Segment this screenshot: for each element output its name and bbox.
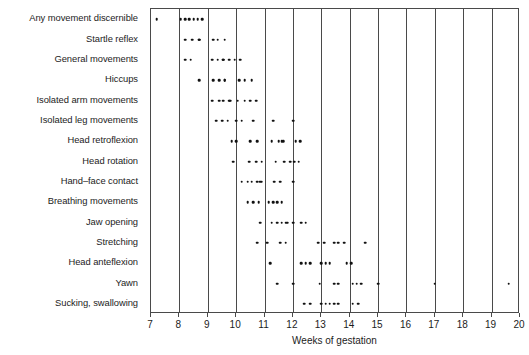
data-point	[222, 99, 225, 102]
data-point	[155, 18, 158, 21]
data-point	[197, 18, 200, 21]
data-point	[280, 221, 283, 224]
data-point	[351, 303, 354, 306]
data-point	[229, 99, 232, 102]
x-tick-mark	[377, 313, 378, 317]
x-tick-mark	[349, 313, 350, 317]
data-point	[212, 79, 215, 82]
data-point	[309, 303, 312, 306]
gridline	[208, 9, 209, 312]
data-point	[211, 59, 214, 62]
data-point	[276, 221, 279, 224]
data-point	[239, 59, 242, 62]
data-point	[243, 99, 246, 102]
data-point	[260, 160, 263, 163]
data-point	[303, 303, 306, 306]
data-point	[343, 242, 346, 245]
data-point	[337, 303, 340, 306]
data-point	[249, 99, 252, 102]
gestation-movement-scatter-figure: Any movement discernibleStartle reflexGe…	[0, 0, 529, 355]
data-point	[260, 181, 263, 184]
data-point	[292, 282, 295, 285]
data-point	[246, 201, 249, 204]
data-point	[309, 262, 312, 265]
x-tick-label: 19	[485, 319, 496, 330]
category-label: Hand–face contact	[61, 176, 138, 186]
data-point	[319, 282, 322, 285]
data-point	[351, 282, 354, 285]
category-label: Yawn	[115, 278, 138, 288]
data-point	[355, 282, 358, 285]
data-point	[280, 201, 283, 204]
data-point	[434, 282, 437, 285]
x-tick-label: 17	[428, 319, 439, 330]
data-point	[211, 99, 214, 102]
data-point	[333, 242, 336, 245]
data-point	[286, 221, 289, 224]
data-point	[250, 79, 253, 82]
data-point	[218, 99, 221, 102]
category-label: Isolated arm movements	[36, 95, 138, 105]
category-label: Any movement discernible	[29, 13, 138, 23]
data-point	[300, 221, 303, 224]
category-label: Sucking, swallowing	[55, 298, 138, 308]
data-point	[323, 242, 326, 245]
data-point	[377, 282, 380, 285]
data-point	[293, 160, 296, 163]
data-point	[249, 140, 252, 143]
data-point	[250, 181, 253, 184]
data-point	[346, 262, 349, 265]
data-point	[329, 262, 332, 265]
gridline	[236, 9, 237, 312]
x-tick-label: 9	[204, 319, 210, 330]
data-point	[212, 38, 215, 41]
data-point	[337, 282, 340, 285]
x-tick-mark	[178, 313, 179, 317]
data-point	[258, 201, 261, 204]
data-point	[216, 59, 219, 62]
data-point	[272, 201, 275, 204]
x-tick-label: 11	[258, 319, 268, 330]
data-point	[270, 221, 273, 224]
x-tick-mark	[434, 313, 435, 317]
data-point	[266, 242, 269, 245]
category-label: Stretching	[96, 237, 138, 247]
data-point	[216, 38, 219, 41]
data-point	[267, 201, 270, 204]
x-axis: Weeks of gestation 789101112131415161718…	[150, 313, 519, 355]
category-label: Head rotation	[82, 156, 138, 166]
data-point	[232, 160, 235, 163]
data-point	[222, 59, 225, 62]
data-point	[235, 120, 238, 123]
data-point	[276, 201, 279, 204]
x-tick-label: 15	[372, 319, 383, 330]
data-point	[235, 140, 238, 143]
data-point	[337, 242, 340, 245]
data-point	[184, 18, 187, 21]
x-tick-mark	[519, 313, 520, 317]
data-point	[184, 59, 187, 62]
data-point	[192, 18, 195, 21]
data-point	[279, 242, 282, 245]
data-point	[333, 282, 336, 285]
data-point	[300, 262, 303, 265]
data-point	[224, 38, 227, 41]
category-label: Jaw opening	[86, 217, 138, 227]
data-point	[283, 160, 286, 163]
data-point	[272, 120, 275, 123]
data-point	[270, 140, 273, 143]
x-tick-label: 16	[400, 319, 411, 330]
x-tick-mark	[320, 313, 321, 317]
gridline	[179, 9, 180, 312]
category-label: Head anteflexion	[68, 257, 138, 267]
category-label: Head retroflexion	[67, 135, 138, 145]
data-point	[256, 242, 259, 245]
category-label: Startle reflex	[86, 34, 138, 44]
data-point	[252, 201, 255, 204]
data-point	[297, 160, 300, 163]
gridline	[435, 9, 436, 312]
x-tick-mark	[150, 313, 151, 317]
data-point	[292, 120, 295, 123]
gridline	[378, 9, 379, 312]
category-label: Isolated leg movements	[40, 115, 138, 125]
